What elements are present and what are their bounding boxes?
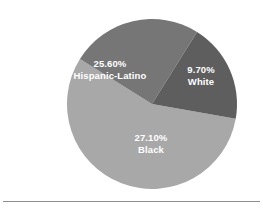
pie-label-black-percent: 27.10%: [135, 132, 168, 144]
pie-label-black-name: Black: [135, 144, 168, 156]
pie-chart-figure: 25.60% Hispanic-Latino 9.70% White 27.10…: [0, 0, 263, 214]
pie-label-white-name: White: [187, 76, 214, 88]
pie-label-white: 9.70% White: [187, 64, 214, 88]
pie-label-hispanic-latino: 25.60% Hispanic-Latino: [74, 58, 147, 82]
horizontal-rule: [3, 201, 260, 202]
pie-label-white-percent: 9.70%: [187, 64, 214, 76]
pie-label-black: 27.10% Black: [135, 132, 168, 156]
pie-label-hispanic-latino-name: Hispanic-Latino: [74, 70, 147, 82]
pie-chart-svg: [0, 0, 263, 214]
pie-label-hispanic-latino-percent: 25.60%: [74, 58, 147, 70]
